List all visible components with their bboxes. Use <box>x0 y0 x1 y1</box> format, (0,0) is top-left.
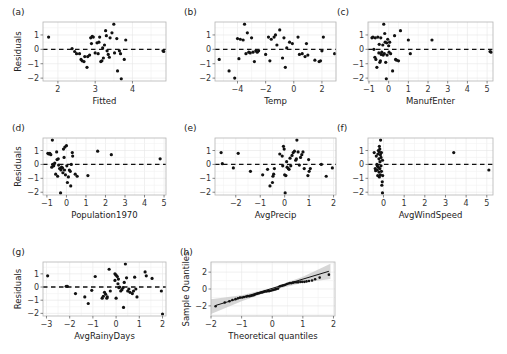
data-point <box>277 287 280 290</box>
x-tick-label: 3 <box>122 199 127 208</box>
data-point <box>264 53 267 56</box>
data-point <box>109 289 112 292</box>
y-tick-label: −1 <box>352 174 364 183</box>
data-point <box>325 175 328 178</box>
y-tick-label: 1 <box>206 31 211 40</box>
data-point <box>117 278 120 281</box>
data-point <box>90 42 93 45</box>
y-tick-label: 1 <box>34 270 39 279</box>
data-point <box>122 306 125 309</box>
y-tick-label: 1 <box>359 147 364 156</box>
data-point <box>121 286 124 289</box>
x-axis-title: Fitted <box>93 96 117 106</box>
data-point <box>123 58 126 61</box>
data-point <box>133 276 136 279</box>
data-point <box>309 167 312 170</box>
data-point <box>376 36 379 39</box>
data-point <box>83 55 86 58</box>
data-point <box>243 296 246 299</box>
data-point <box>381 43 384 46</box>
data-point <box>381 174 384 177</box>
data-point <box>331 166 334 169</box>
panel-a: 234−2−101FittedResiduals(a) <box>12 7 166 106</box>
data-point <box>71 154 74 157</box>
x-tick-label: 0 <box>291 85 296 94</box>
data-point <box>220 151 223 154</box>
y-tick-label: 0 <box>206 45 211 54</box>
y-tick-label: 0 <box>34 160 39 169</box>
x-tick-label: 3 <box>443 199 448 208</box>
y-axis-title: Residuals <box>13 268 23 309</box>
data-point <box>383 32 386 35</box>
x-tick-label: −1 <box>41 199 53 208</box>
data-point <box>374 58 377 61</box>
data-point <box>430 38 433 41</box>
data-point <box>284 191 287 194</box>
x-tick-label: 0 <box>386 85 391 94</box>
x-tick-label: −2 <box>205 320 217 329</box>
y-tick-label: 0 <box>359 160 364 169</box>
data-point <box>65 144 68 147</box>
panel-f: 012345−2−101AvgWindSpeed(f) <box>337 123 493 220</box>
data-point <box>320 49 323 52</box>
x-axis-title: AvgPrecip <box>255 210 297 220</box>
data-point <box>228 300 231 303</box>
data-point <box>386 38 389 41</box>
x-tick-label: 2 <box>160 320 165 329</box>
data-point <box>100 59 103 62</box>
x-tick-label: 3 <box>93 85 98 94</box>
data-point <box>71 151 74 154</box>
data-point <box>378 145 381 148</box>
data-point <box>383 52 386 55</box>
data-point <box>250 36 253 39</box>
data-point <box>227 69 230 72</box>
data-point <box>372 48 375 51</box>
x-tick-label: 1 <box>406 85 411 94</box>
data-point <box>161 312 164 315</box>
y-axis-title: Residuals <box>13 31 23 72</box>
data-point <box>379 156 382 159</box>
data-point <box>115 37 118 40</box>
data-point <box>124 262 127 265</box>
data-point <box>51 138 54 141</box>
x-tick-label: −3 <box>41 320 53 329</box>
panel-letter-label: (f) <box>337 123 347 133</box>
x-tick-label: 1 <box>300 320 305 329</box>
x-tick-label: 0 <box>64 199 69 208</box>
data-point <box>118 285 121 288</box>
data-point <box>295 157 298 160</box>
y-tick-label: −1 <box>27 174 39 183</box>
data-point <box>268 59 271 62</box>
x-tick-label: 0 <box>282 199 287 208</box>
x-axis-title: AvgWindSpeed <box>399 210 463 220</box>
data-point <box>159 157 162 160</box>
data-point <box>303 281 306 284</box>
data-point <box>379 138 382 141</box>
y-tick-label: −2 <box>27 188 39 197</box>
data-point <box>397 59 400 62</box>
data-point <box>407 38 410 41</box>
x-tick-label: 0 <box>114 320 119 329</box>
y-tick-label: −2 <box>27 309 39 318</box>
data-point <box>57 157 60 160</box>
data-point <box>278 28 281 31</box>
data-point <box>384 61 387 64</box>
data-point <box>144 270 147 273</box>
data-point <box>102 56 105 59</box>
panel-c: −1012345−2−101ManufEnter(c) <box>337 7 493 106</box>
data-point <box>113 51 116 54</box>
panel-letter-label: (b) <box>184 7 197 17</box>
data-point <box>283 148 286 151</box>
data-point <box>66 181 69 184</box>
data-point <box>387 44 390 47</box>
x-tick-label: 1 <box>402 199 407 208</box>
data-point <box>281 56 284 59</box>
data-point <box>242 38 245 41</box>
data-point <box>232 166 235 169</box>
data-point <box>298 53 301 56</box>
data-point <box>118 49 121 52</box>
x-tick-label: 1 <box>137 320 142 329</box>
x-axis-title: ManufEnter <box>406 96 456 106</box>
data-point <box>239 38 242 41</box>
data-point <box>98 36 101 39</box>
